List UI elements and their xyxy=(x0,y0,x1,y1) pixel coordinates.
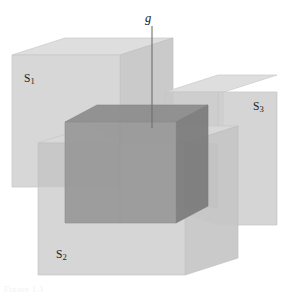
intersection-g-front-face xyxy=(65,122,176,223)
label-s1-sub: 1 xyxy=(31,76,36,86)
label-s2-base: S xyxy=(56,248,63,260)
figure-container: S1 S3 S2 g Figure 1.1 xyxy=(0,0,293,292)
intersection-cube-g xyxy=(65,105,208,223)
figure-caption-fragment: Figure 1.1 xyxy=(4,284,154,292)
three-overlapping-cubes-diagram: S1 S3 S2 g xyxy=(0,0,293,292)
label-s1-base: S xyxy=(24,72,31,84)
cube-s3-top-face xyxy=(165,75,277,92)
intersection-g-side-face xyxy=(176,105,208,223)
label-s2-sub: 2 xyxy=(63,252,68,262)
label-g: g xyxy=(145,11,151,25)
label-s3-base: S xyxy=(253,100,260,112)
label-s3-sub: 3 xyxy=(260,104,265,114)
